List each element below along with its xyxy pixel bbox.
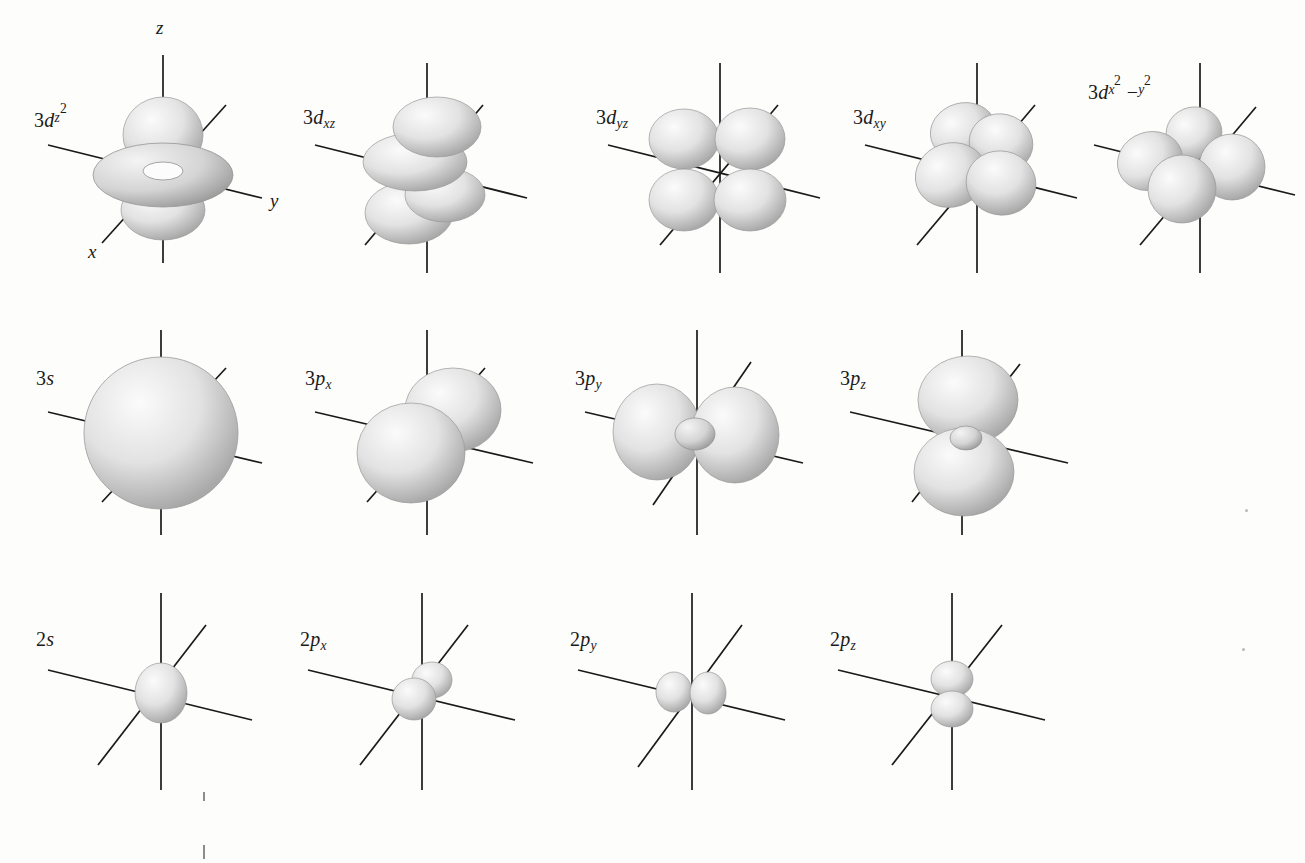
orbital-surface-3pz (914, 356, 1018, 516)
axis-label-y: y (270, 190, 278, 212)
orbital-surface-2px (392, 662, 452, 720)
orbital-surface-3dyz (649, 108, 786, 231)
orbital-surface-3px (357, 368, 501, 503)
scan-edge-mark-bottom (203, 845, 205, 859)
orbital-surface-3dz2 (93, 97, 233, 240)
orbital-surface-2py (656, 672, 726, 714)
scan-speck-right (1245, 509, 1248, 512)
orbital-label-3dz2: 3dz2 (34, 107, 73, 130)
orbital-surface-2s (135, 663, 187, 723)
orbital-panel-3px: 3px (305, 320, 550, 550)
scan-speck-lower-right (1242, 648, 1245, 651)
orbital-label-3dxz: 3dxz (303, 107, 335, 130)
orbital-surface-3dxz (363, 97, 485, 244)
orbital-label-3px: 3px (305, 368, 332, 391)
orbital-panel-2py: 2py (570, 585, 815, 805)
orbital-label-3dx2y2: 3dx2−y2 (1088, 79, 1157, 102)
orbital-label-2px: 2px (300, 629, 327, 652)
orbital-surface-3dx2y2 (1109, 102, 1271, 230)
orbital-panel-3dz2: 3dz2 z y x (30, 35, 280, 285)
orbital-panel-3s: 3s (30, 320, 280, 550)
orbital-surface-3dxy (907, 95, 1042, 222)
orbital-label-2s: 2s (36, 629, 54, 649)
orbital-panel-3dxy: 3dxy (855, 55, 1095, 295)
orbital-panel-2pz: 2pz (830, 585, 1075, 805)
scan-edge-mark-top (203, 792, 205, 801)
axes-3dyz (608, 63, 820, 273)
orbital-panel-3dx2y2: 3dx2−y2 (1090, 55, 1305, 295)
orbital-figure: 3dz2 z y x 3dxz (0, 0, 1305, 863)
orbital-label-2pz: 2pz (830, 629, 856, 652)
orbital-surface-3py (613, 384, 779, 483)
orbital-panel-2px: 2px (300, 585, 545, 805)
orbital-panel-3pz: 3pz (840, 320, 1085, 550)
orbital-label-3dyz: 3dyz (596, 107, 628, 130)
orbital-label-3py: 3py (575, 368, 602, 391)
orbital-label-3pz: 3pz (840, 368, 866, 391)
orbital-label-3s: 3s (36, 368, 54, 388)
orbital-panel-3py: 3py (575, 320, 820, 550)
orbital-panel-3dxz: 3dxz (305, 55, 545, 295)
axis-label-z: z (156, 17, 163, 39)
orbital-label-2py: 2py (570, 629, 597, 652)
orbital-label-3dxy: 3dxy (853, 107, 886, 130)
orbital-panel-2s: 2s (30, 585, 280, 805)
orbital-surface-3s (84, 357, 238, 509)
orbital-panel-3dyz: 3dyz (598, 55, 838, 295)
axis-label-x: x (88, 241, 96, 263)
